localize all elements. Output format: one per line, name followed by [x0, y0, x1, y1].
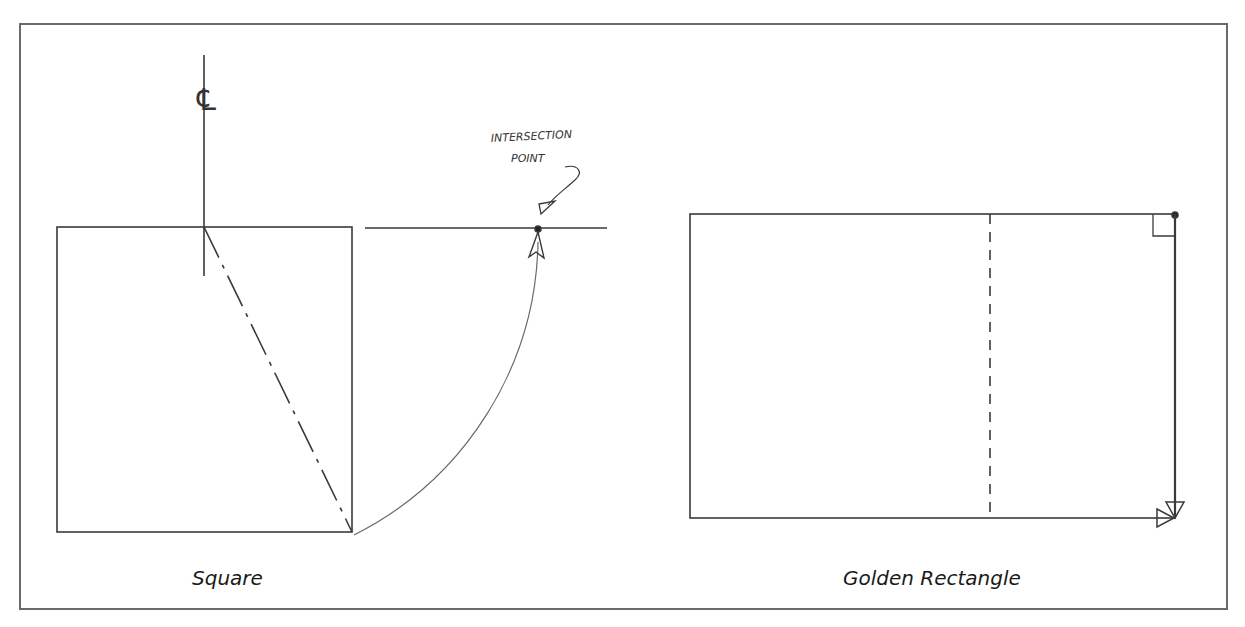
diagonal-dash-dot-line — [204, 227, 352, 532]
swing-arc — [354, 242, 538, 535]
arc-arrowhead-icon — [529, 232, 544, 258]
annotation-line2: POINT — [511, 152, 546, 165]
centerline-symbol: ℄ — [193, 82, 220, 117]
right-angle-marker — [1153, 214, 1175, 236]
golden-rectangle-construction — [690, 212, 1184, 527]
square-caption: Square — [192, 566, 263, 590]
golden-rectangle-caption: Golden Rectangle — [843, 566, 1021, 590]
geometric-construction-drawing: ℄ INTERSECTION POINT — [0, 0, 1245, 627]
annotation-arrowhead-icon — [539, 201, 555, 214]
annotation-line1: INTERSECTION — [490, 128, 572, 145]
golden-rectangle-shape — [690, 214, 1175, 518]
intersection-point-dot — [535, 226, 541, 232]
square-construction — [57, 55, 607, 535]
annotation-pointer — [548, 166, 579, 205]
